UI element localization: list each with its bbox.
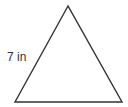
triangle-diagram: 7 in (0, 0, 128, 107)
triangle-shape (15, 6, 122, 102)
side-length-label: 7 in (7, 50, 26, 64)
